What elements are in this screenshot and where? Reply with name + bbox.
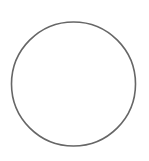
diagram-canvas <box>0 0 149 161</box>
circle-outline <box>12 22 136 146</box>
diagram-svg <box>0 0 149 161</box>
